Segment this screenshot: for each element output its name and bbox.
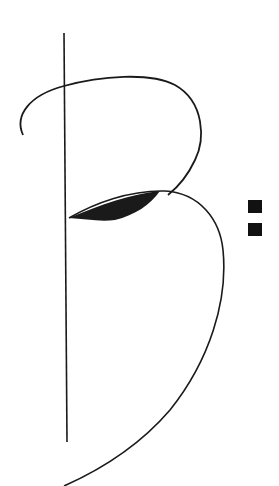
upper-bowl-stroke [21, 77, 201, 195]
colon-dot-bottom [248, 223, 262, 236]
calligraphic-b-logo: B [0, 0, 279, 486]
letter-stem [64, 33, 67, 442]
crossbar-leaf [69, 191, 160, 221]
lower-bowl-stroke [64, 191, 224, 486]
colon-dot-top [248, 200, 262, 213]
